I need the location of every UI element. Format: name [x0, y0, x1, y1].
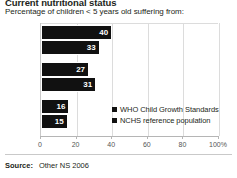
- bar-value-label: 40: [99, 29, 108, 37]
- axis-tick: [218, 136, 219, 139]
- bar: 15: [41, 114, 68, 129]
- legend-swatch-icon: [112, 118, 117, 123]
- footer-divider: [5, 154, 232, 155]
- x-axis: 020406080100%: [40, 136, 218, 137]
- bar: 31: [41, 77, 96, 92]
- axis-tick-label: 80: [178, 141, 186, 148]
- bar-group: Stunting4033: [41, 25, 218, 57]
- axis-tick: [76, 136, 77, 139]
- bar: 16: [41, 99, 69, 114]
- axis-tick: [40, 136, 41, 139]
- legend-label: WHO Child Growth Standards: [120, 105, 219, 114]
- bar-value-label: 15: [55, 118, 64, 126]
- axis-tick-label: 20: [72, 141, 80, 148]
- bar: 33: [41, 40, 100, 55]
- axis-tick-label: 0: [38, 141, 42, 148]
- source-label: Source:: [5, 161, 33, 170]
- bar: 40: [41, 25, 112, 40]
- source-value: Other NS 2006: [39, 161, 89, 170]
- legend-label: NCHS reference population: [120, 116, 210, 125]
- legend-swatch-icon: [112, 107, 117, 112]
- axis-tick-label: 60: [143, 141, 151, 148]
- chart-legend: WHO Child Growth Standards NCHS referenc…: [112, 104, 219, 126]
- bar: 27: [41, 62, 89, 77]
- bar-value-label: 31: [83, 81, 92, 89]
- bar-value-label: 33: [87, 44, 96, 52]
- axis-tick: [182, 136, 183, 139]
- axis-tick-label: 40: [107, 141, 115, 148]
- source-note: Source:Other NS 2006: [5, 161, 89, 170]
- bar-value-label: 27: [76, 66, 85, 74]
- axis-tick-label: 100%: [209, 141, 227, 148]
- chart-subtitle: Percentage of children < 5 years old suf…: [5, 7, 184, 16]
- plot-top-rule: [41, 23, 218, 24]
- bar-group: Underweight2731: [41, 62, 218, 94]
- chart-figure: Current nutritional status Percentage of…: [0, 0, 237, 178]
- axis-tick: [147, 136, 148, 139]
- legend-item: NCHS reference population: [112, 115, 219, 126]
- axis-tick: [111, 136, 112, 139]
- gridline: [219, 23, 220, 136]
- legend-item: WHO Child Growth Standards: [112, 104, 219, 115]
- bar-value-label: 16: [57, 103, 66, 111]
